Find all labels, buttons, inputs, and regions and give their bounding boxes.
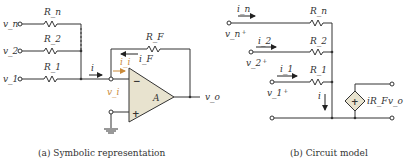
label-rf: R_F xyxy=(145,32,164,43)
terminal-out-top xyxy=(390,82,394,86)
circuit-diagram: v_n v_2 v_1 R_n R_2 R_1 R_F i_F i i_i v_… xyxy=(0,0,404,167)
resistor-r2-wire xyxy=(22,48,81,54)
label-r1: R_1 xyxy=(43,62,61,73)
label-rn: R_n xyxy=(43,7,61,18)
source-plus-sign: + xyxy=(351,97,359,107)
label-v1-b: v_1+ xyxy=(267,87,288,99)
terminal-ground-left xyxy=(270,116,274,120)
terminal-v1-b xyxy=(270,80,274,84)
figure-a-symbolic: v_n v_2 v_1 R_n R_2 R_1 R_F i_F i i_i v_… xyxy=(3,7,221,158)
label-i1: i_1 xyxy=(280,64,293,75)
plus-sign: + xyxy=(132,109,140,119)
label-vo-a: v_o xyxy=(205,92,221,103)
label-in: i_n xyxy=(237,4,250,15)
label-i2: i_2 xyxy=(258,36,271,47)
terminal-v2 xyxy=(18,49,22,53)
inverting-node xyxy=(109,77,113,81)
resistor-r2-b xyxy=(253,49,332,55)
label-v2: v_2 xyxy=(3,46,19,57)
noninverting-node xyxy=(109,110,113,114)
label-r2: R_2 xyxy=(43,34,61,45)
caption-b: (b) Circuit model xyxy=(290,148,368,158)
label-i: i xyxy=(91,63,94,73)
label-vn-b: v_n+ xyxy=(225,28,246,40)
ground-icon xyxy=(104,114,118,133)
terminal-v1 xyxy=(18,77,22,81)
label-vi: v_i xyxy=(107,87,120,98)
figure-b-circuit-model: + i_n R_n v_n+ i_2 R_2 v_2+ i_1 R_1 v_1+… xyxy=(225,4,404,158)
minus-sign: − xyxy=(133,76,141,86)
label-rn-b: R_n xyxy=(309,6,327,17)
label-ii: i_i xyxy=(120,57,130,68)
terminal-vn-b xyxy=(227,21,231,25)
resistor-r1-b xyxy=(274,79,332,85)
caption-a: (a) Symbolic representation xyxy=(38,148,166,158)
terminal-v2-b xyxy=(249,50,253,54)
label-v2-b: v_2+ xyxy=(246,57,267,69)
label-i-b: i xyxy=(318,91,321,101)
label-v1: v_1 xyxy=(3,74,18,85)
terminal-out-bottom xyxy=(390,116,394,120)
resistor-r1-wire xyxy=(22,76,109,82)
terminal-vn xyxy=(18,22,22,26)
label-r1-b: R_1 xyxy=(309,65,327,76)
label-gain-a: A xyxy=(152,93,160,103)
label-if: i_F xyxy=(139,54,153,65)
label-vn: v_n xyxy=(3,19,19,30)
label-vo-b: v_o xyxy=(388,96,404,107)
label-irf: iR_F xyxy=(367,96,388,107)
label-r2-b: R_2 xyxy=(309,36,327,47)
